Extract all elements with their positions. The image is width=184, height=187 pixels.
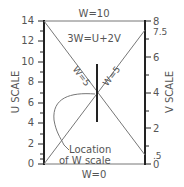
u-tick-6: 6 — [28, 97, 34, 108]
v-axis-title: V SCALE — [164, 71, 175, 113]
top-label: W=10 — [79, 8, 110, 19]
u-tick-10: 10 — [21, 56, 34, 67]
v-tick-8: 8 — [153, 16, 159, 27]
w5-left-label: W=5 — [71, 64, 92, 88]
v-tick-4: 4 — [153, 87, 159, 98]
location-leader-curve — [54, 94, 95, 150]
u-tick-2: 2 — [28, 138, 34, 149]
u-tick-0: 0 — [28, 158, 34, 169]
u-tick-14: 14 — [21, 15, 34, 26]
annotation-line2: of W scale — [59, 155, 111, 166]
annotation-line1: Location — [69, 144, 111, 155]
u-tick-4: 4 — [28, 117, 34, 128]
v-tick-0.5: .5 — [153, 151, 162, 161]
u-axis-title: U SCALE — [10, 71, 21, 114]
bottom-label: W=0 — [82, 169, 107, 180]
v-tick-7.5: 7.5 — [153, 27, 167, 37]
v-tick-6: 6 — [153, 52, 159, 63]
equation-label: 3W=U+2V — [67, 33, 121, 44]
u-tick-12: 12 — [21, 35, 34, 46]
u-tick-8: 8 — [28, 76, 34, 87]
w5-right-label: W=5 — [101, 64, 122, 88]
v-tick-2: 2 — [153, 123, 159, 134]
nomogram-diagram: W=10 W=0 3W=U+2V 0 2 4 6 8 10 12 14 0 .5… — [0, 0, 184, 187]
